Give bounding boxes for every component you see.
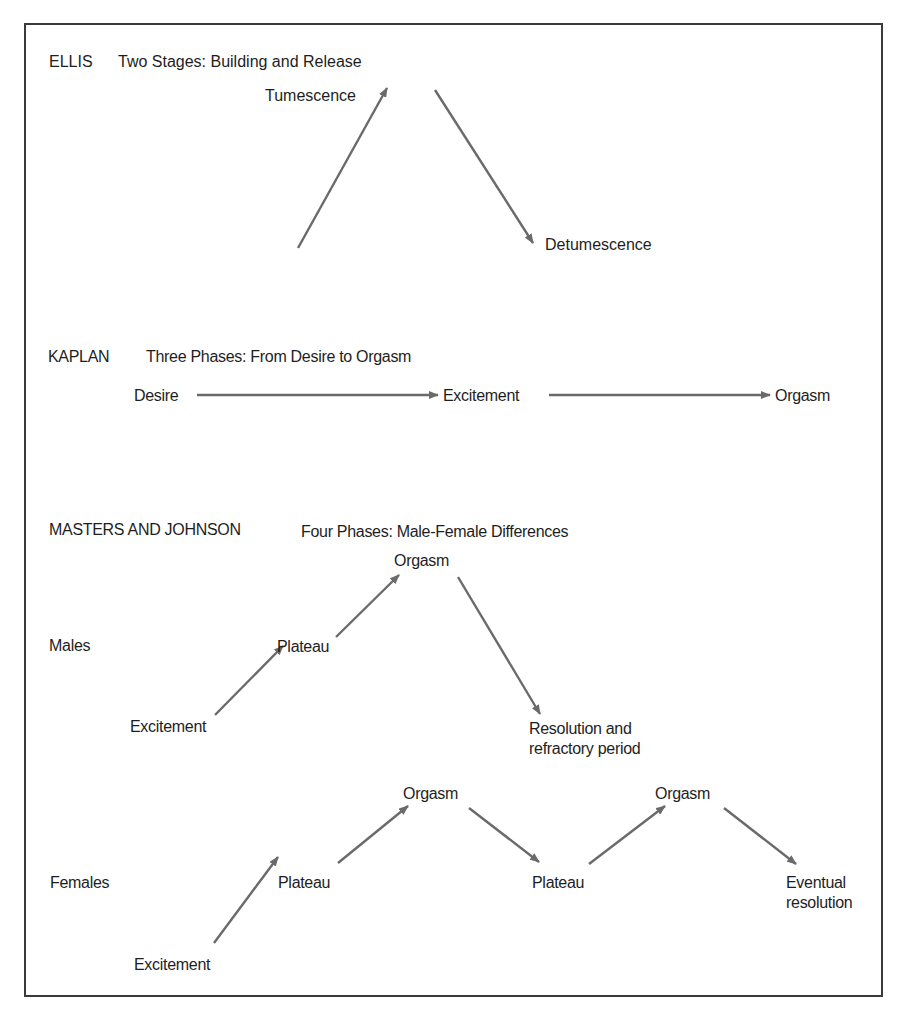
male-excitement: Excitement — [130, 717, 206, 736]
mj-author: MASTERS AND JOHNSON — [49, 520, 241, 539]
male-plateau: Plateau — [277, 637, 329, 656]
arrow-female-plateau2-orgasm2 — [589, 806, 665, 864]
male-resolution-line2: refractory period — [529, 739, 640, 758]
arrows-layer — [0, 0, 903, 1018]
arrow-male-orgasm-resolution — [458, 577, 540, 714]
male-resolution-line1: Resolution and — [529, 719, 632, 738]
mj-title: Four Phases: Male-Female Differences — [301, 522, 568, 541]
arrow-male-excitement-plateau — [215, 646, 283, 715]
ellis-tumescence: Tumescence — [265, 86, 356, 105]
female-plateau-1: Plateau — [278, 873, 330, 892]
females-label: Females — [50, 873, 109, 892]
males-label: Males — [49, 636, 90, 655]
ellis-title: Two Stages: Building and Release — [118, 52, 362, 71]
arrow-ellis-up — [298, 88, 387, 248]
kaplan-title: Three Phases: From Desire to Orgasm — [146, 347, 411, 366]
ellis-author: ELLIS — [49, 52, 93, 71]
male-orgasm: Orgasm — [394, 551, 449, 570]
arrow-female-plateau-orgasm1 — [338, 806, 408, 863]
arrow-female-orgasm2-resolution — [724, 808, 796, 864]
kaplan-excitement: Excitement — [443, 386, 519, 405]
ellis-detumescence: Detumescence — [545, 235, 652, 254]
female-orgasm-1: Orgasm — [403, 784, 458, 803]
kaplan-author: KAPLAN — [48, 347, 109, 366]
female-excitement: Excitement — [134, 955, 210, 974]
kaplan-orgasm: Orgasm — [775, 386, 830, 405]
arrow-female-excitement-plateau — [214, 857, 278, 943]
female-plateau-2: Plateau — [532, 873, 584, 892]
arrow-male-plateau-orgasm — [336, 575, 399, 637]
kaplan-desire: Desire — [134, 386, 178, 405]
female-resolution-line1: Eventual — [786, 873, 846, 892]
arrow-ellis-down — [435, 90, 533, 243]
arrow-female-orgasm1-plateau2 — [469, 808, 539, 862]
female-orgasm-2: Orgasm — [655, 784, 710, 803]
female-resolution-line2: resolution — [786, 893, 852, 912]
